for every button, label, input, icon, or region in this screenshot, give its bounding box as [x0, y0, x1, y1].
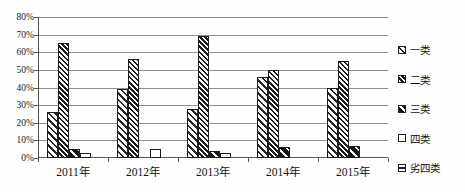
y-tick-mark [34, 17, 38, 18]
bar [257, 77, 268, 158]
legend-swatch-icon [398, 164, 406, 172]
x-tick-mark [248, 158, 249, 162]
legend: 一类二类三类四类劣四类 [398, 42, 440, 175]
x-tick-mark [388, 158, 389, 162]
bar [80, 153, 91, 158]
y-tick-mark [34, 105, 38, 106]
legend-label: 一类 [410, 42, 430, 57]
x-tick-mark [38, 158, 39, 162]
bar [58, 43, 69, 158]
x-tick-label: 2015年 [318, 163, 388, 179]
gridline [39, 35, 388, 36]
y-tick-label: 20% [0, 118, 34, 128]
bar [338, 61, 349, 158]
gridline [39, 70, 388, 71]
legend-label: 四类 [410, 131, 430, 146]
x-tick-mark [318, 158, 319, 162]
bar [220, 153, 231, 158]
bar [150, 149, 161, 158]
legend-swatch-icon [398, 105, 406, 113]
x-tick-label: 2014年 [248, 163, 318, 179]
bar [279, 147, 290, 158]
bar [209, 151, 220, 158]
y-tick-label: 10% [0, 135, 34, 145]
bar [69, 149, 80, 158]
y-tick-mark [34, 70, 38, 71]
bar [198, 36, 209, 158]
legend-item: 三类 [398, 101, 440, 116]
y-tick-mark [34, 140, 38, 141]
y-tick-label: 50% [0, 65, 34, 75]
y-tick-mark [34, 35, 38, 36]
bar [128, 59, 139, 158]
y-tick-label: 70% [0, 30, 34, 40]
y-tick-label: 0% [0, 153, 34, 163]
legend-swatch-icon [398, 134, 406, 142]
x-tick-mark [178, 158, 179, 162]
bar [349, 146, 360, 158]
legend-item: 二类 [398, 72, 440, 87]
y-tick-mark [34, 52, 38, 53]
legend-item: 劣四类 [398, 160, 440, 175]
bar [187, 109, 198, 158]
gridline [39, 17, 388, 18]
x-tick-label: 2011年 [38, 163, 108, 179]
legend-item: 一类 [398, 42, 440, 57]
y-tick-label: 30% [0, 100, 34, 110]
gridline [39, 52, 388, 53]
y-tick-label: 80% [0, 12, 34, 22]
y-tick-label: 40% [0, 83, 34, 93]
y-tick-label: 60% [0, 47, 34, 57]
legend-label: 三类 [410, 101, 430, 116]
bar-chart: 一类二类三类四类劣四类 0%10%20%30%40%50%60%70%80%20… [0, 0, 465, 192]
x-tick-label: 2013年 [178, 163, 248, 179]
x-tick-mark [108, 158, 109, 162]
legend-swatch-icon [398, 75, 406, 83]
x-tick-label: 2012年 [108, 163, 178, 179]
y-tick-mark [34, 88, 38, 89]
bar [268, 70, 279, 158]
legend-swatch-icon [398, 46, 406, 54]
legend-label: 劣四类 [410, 160, 440, 175]
bar [47, 112, 58, 158]
legend-item: 四类 [398, 131, 440, 146]
legend-label: 二类 [410, 72, 430, 87]
y-tick-mark [34, 123, 38, 124]
plot-area [38, 17, 388, 158]
bar [327, 88, 338, 159]
bar [117, 89, 128, 158]
